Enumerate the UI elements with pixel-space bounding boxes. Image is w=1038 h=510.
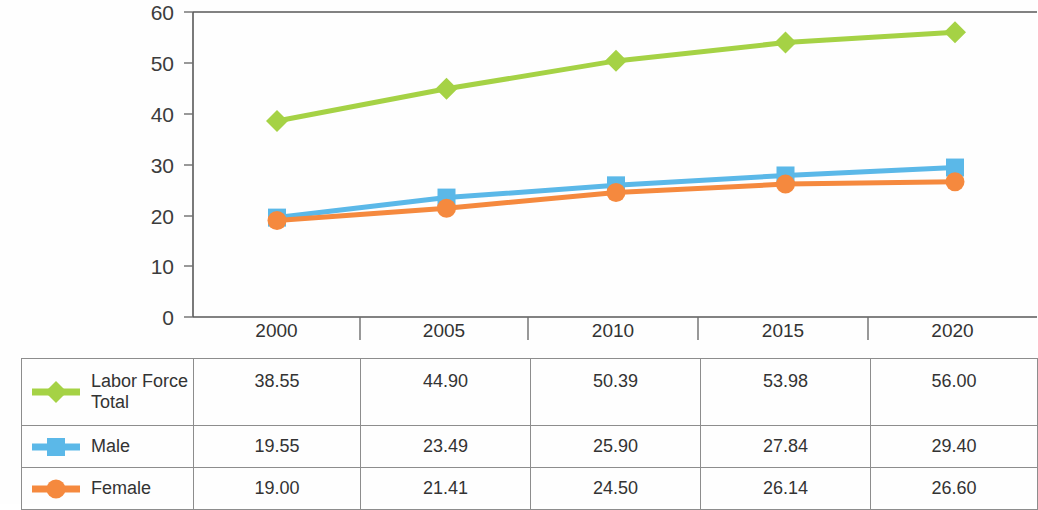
line-chart: 60 50 40 30 20 10 0 2000 2005 2010	[0, 0, 1037, 340]
data-point-marker	[946, 172, 965, 191]
y-axis-ticks	[184, 12, 193, 317]
y-tick-10: 10	[151, 255, 174, 278]
cell-male-2000: 19.55	[194, 436, 360, 457]
cell-female-2000: 19.00	[194, 478, 360, 499]
x-axis-category-labels: 2000 2005 2010 2015 2020	[193, 320, 1037, 340]
data-point-marker	[607, 183, 626, 202]
table-cell: 25.90	[531, 426, 701, 468]
table-cell: 26.60	[871, 468, 1038, 510]
y-axis-tick-labels: 60 50 40 30 20 10 0	[151, 1, 174, 329]
cell-male-2015: 27.84	[701, 436, 870, 457]
y-tick-20: 20	[151, 205, 174, 228]
y-tick-60: 60	[151, 1, 174, 24]
table-cell: 56.00	[871, 359, 1038, 426]
table-cell: 23.49	[361, 426, 531, 468]
table-row: Labor ForceTotal 38.55 44.90 50.39 53.98…	[22, 359, 1038, 426]
legend-cell-total: Labor ForceTotal	[22, 359, 194, 426]
series-layer	[266, 21, 966, 230]
table-cell: 50.39	[531, 359, 701, 426]
legend-marker-diamond-icon	[30, 379, 82, 405]
legend-label-total-line1: Labor Force	[91, 371, 188, 391]
x-label-2000: 2000	[193, 320, 360, 340]
table-cell: 44.90	[361, 359, 531, 426]
legend-label-male: Male	[91, 436, 130, 457]
y-tick-30: 30	[151, 154, 174, 177]
cell-female-2015: 26.14	[701, 478, 870, 499]
table-row: Female 19.00 21.41 24.50 26.14 26.60	[22, 468, 1038, 510]
data-point-marker	[944, 21, 966, 43]
y-tick-40: 40	[151, 103, 174, 126]
cell-male-2010: 25.90	[531, 436, 700, 457]
cell-total-2005: 44.90	[361, 371, 530, 414]
data-point-marker	[268, 211, 287, 230]
cell-total-2000: 38.55	[194, 371, 360, 414]
table-cell: 26.14	[701, 468, 871, 510]
cell-male-2005: 23.49	[361, 436, 530, 457]
cell-female-2005: 21.41	[361, 478, 530, 499]
legend-cell-male: Male	[22, 426, 194, 468]
cell-male-2020: 29.40	[871, 436, 1037, 457]
data-point-marker	[266, 110, 288, 132]
data-point-marker	[605, 50, 627, 72]
data-point-marker	[776, 175, 795, 194]
legend-marker-square-icon	[30, 434, 82, 460]
y-tick-50: 50	[151, 52, 174, 75]
data-point-marker	[436, 78, 458, 100]
data-point-marker	[437, 199, 456, 218]
cell-female-2010: 24.50	[531, 478, 700, 499]
cell-total-2015: 53.98	[701, 371, 870, 414]
cell-total-2010: 50.39	[531, 371, 700, 414]
chart-data-table: Labor ForceTotal 38.55 44.90 50.39 53.98…	[21, 358, 1038, 510]
x-label-2020: 2020	[868, 320, 1037, 340]
legend-cell-female: Female	[22, 468, 194, 510]
legend-marker-circle-icon	[30, 476, 82, 502]
x-label-2015: 2015	[698, 320, 868, 340]
table-row: Male 19.55 23.49 25.90 27.84 29.40	[22, 426, 1038, 468]
x-label-2005: 2005	[360, 320, 528, 340]
table-cell: 53.98	[701, 359, 871, 426]
cell-female-2020: 26.60	[871, 478, 1037, 499]
series-labor-force-total	[266, 21, 966, 132]
legend-label-total-line2: Total	[91, 392, 129, 412]
x-label-2010: 2010	[528, 320, 698, 340]
y-tick-0: 0	[162, 306, 174, 329]
chart-canvas: 60 50 40 30 20 10 0	[0, 0, 1037, 340]
legend-label-female: Female	[91, 478, 151, 499]
table-cell: 38.55	[194, 359, 361, 426]
table-cell: 19.55	[194, 426, 361, 468]
table-cell: 21.41	[361, 468, 531, 510]
table-cell: 27.84	[701, 426, 871, 468]
cell-total-2020: 56.00	[871, 371, 1037, 414]
legend-label-total: Labor ForceTotal	[91, 371, 188, 412]
table-cell: 29.40	[871, 426, 1038, 468]
table-cell: 24.50	[531, 468, 701, 510]
data-point-marker	[775, 32, 797, 54]
table-cell: 19.00	[194, 468, 361, 510]
series-line	[277, 32, 955, 121]
